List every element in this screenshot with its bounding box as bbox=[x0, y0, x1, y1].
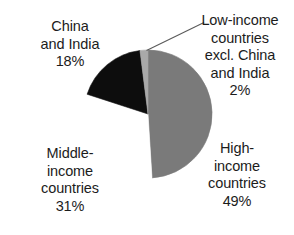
slice-label-china-india: China and India 18% bbox=[13, 18, 127, 71]
slice-label-high-income: High- income countries 49% bbox=[186, 140, 288, 210]
slice-label-low-income: Low-income countries excl. China and Ind… bbox=[188, 12, 292, 100]
pie-chart-figure: China and India 18% Low-income countries… bbox=[0, 0, 294, 235]
slice-label-middle-income: Middle- income countries 31% bbox=[14, 145, 126, 215]
